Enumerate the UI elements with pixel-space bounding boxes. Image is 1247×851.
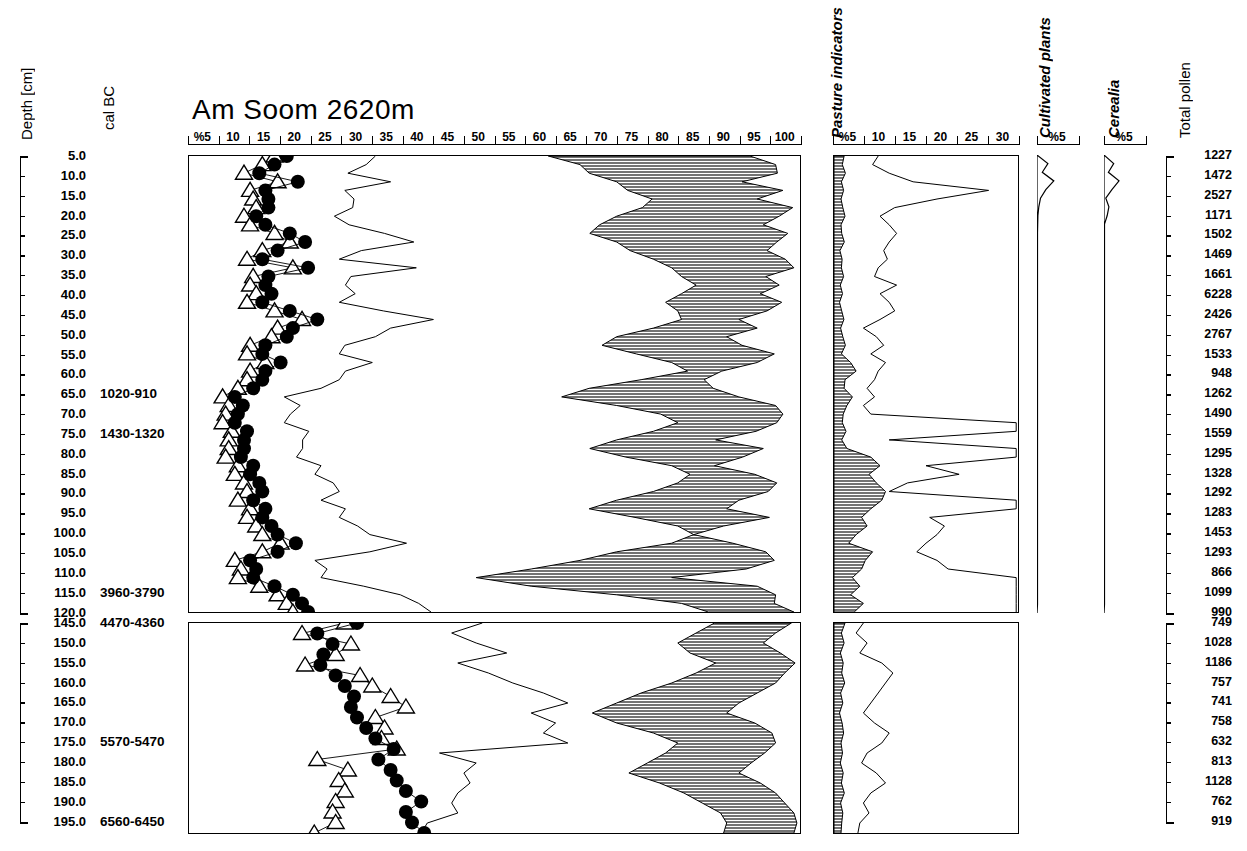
depth-label: 190.0 (26, 794, 86, 809)
depth-tick (20, 355, 25, 356)
total-pollen-value: 919 (1174, 814, 1232, 828)
axis-tick-label: 60 (527, 130, 552, 144)
depth-tick (20, 493, 25, 494)
total-pollen-tick (1166, 493, 1171, 494)
axis-tick (372, 136, 373, 145)
panel-pasture-top (833, 155, 1019, 613)
depth-tick (20, 315, 25, 316)
depth-label: 100.0 (26, 525, 86, 540)
depth-tick (20, 374, 25, 375)
depth-label: 110.0 (26, 565, 86, 580)
panel-main-bottom (188, 622, 801, 834)
depth-tick (20, 623, 25, 624)
total-pollen-value: 813 (1174, 754, 1232, 768)
total-pollen-tick (1166, 683, 1171, 684)
total-pollen-value: 6228 (1174, 287, 1232, 301)
axis-tick (586, 136, 587, 145)
total-pollen-tick (1166, 553, 1171, 554)
cal-bc-value: 6560-6450 (100, 814, 165, 829)
depth-tick (20, 663, 25, 664)
depth-tick (20, 822, 25, 823)
axis-tick-label: %5 (1039, 130, 1075, 144)
depth-tick (20, 613, 25, 614)
depth-tick (20, 216, 25, 217)
depth-label: 90.0 (26, 485, 86, 500)
axis-tick (833, 136, 834, 145)
total-pollen-value: 1533 (1174, 347, 1232, 361)
total-pollen-value: 1171 (1174, 208, 1232, 222)
axis-tick (770, 136, 771, 145)
total-pollen-tick (1166, 196, 1171, 197)
depth-label: 170.0 (26, 714, 86, 729)
axis-tick (280, 136, 281, 145)
axis-tick (926, 136, 927, 145)
axis-tick-label: 15 (251, 130, 276, 144)
total-pollen-value: 1028 (1174, 635, 1232, 649)
total-pollen-value: 1472 (1174, 168, 1232, 182)
depth-label: 75.0 (26, 426, 86, 441)
axis-tick-label: 75 (619, 130, 644, 144)
axis-tick-label: %5 (1106, 130, 1142, 144)
column-header-cerealia: Cerealia (1105, 60, 1122, 138)
panel-cerealia (1104, 155, 1146, 613)
total-pollen-value: 866 (1174, 565, 1232, 579)
depth-tick (20, 196, 25, 197)
depth-tick (20, 275, 25, 276)
depth-label: 95.0 (26, 505, 86, 520)
total-pollen-tick (1166, 394, 1171, 395)
total-pollen-value: 2767 (1174, 327, 1232, 341)
depth-label: 80.0 (26, 446, 86, 461)
total-pollen-tick (1166, 782, 1171, 783)
axis-tick (864, 136, 865, 145)
axis-tick (648, 136, 649, 145)
total-pollen-tick (1166, 275, 1171, 276)
total-pollen-value: 1128 (1174, 774, 1232, 788)
axis-label-depth: Depth [cm] (18, 30, 35, 140)
depth-tick (20, 802, 25, 803)
axis-tick (219, 136, 220, 145)
depth-label: 5.0 (26, 148, 86, 163)
axis-tick-label: 40 (405, 130, 430, 144)
axis-tick-label: 90 (711, 130, 736, 144)
depth-tick (20, 235, 25, 236)
total-pollen-tick (1166, 414, 1171, 415)
axis-tick-label: 20 (928, 130, 953, 144)
axis-tick-label: 30 (990, 130, 1015, 144)
column-header-total-pollen: Total pollen (1176, 40, 1193, 138)
total-pollen-tick (1166, 702, 1171, 703)
depth-label: 15.0 (26, 188, 86, 203)
total-pollen-value: 2527 (1174, 188, 1232, 202)
total-pollen-tick (1166, 663, 1171, 664)
depth-label: 10.0 (26, 168, 86, 183)
total-pollen-tick (1166, 802, 1171, 803)
axis-tick-label: 100 (772, 130, 797, 144)
axis-tick (433, 136, 434, 145)
axis-tick (188, 136, 189, 145)
series-circles-bottom (310, 623, 431, 833)
depth-label: 35.0 (26, 267, 86, 282)
depth-tick (20, 742, 25, 743)
cal-bc-value: 5570-5470 (100, 734, 165, 749)
axis-tick-label: 10 (866, 130, 891, 144)
total-pollen-value: 1262 (1174, 386, 1232, 400)
total-pollen-value: 749 (1174, 615, 1232, 629)
depth-label: 145.0 (26, 615, 86, 630)
total-pollen-value: 948 (1174, 366, 1232, 380)
axis-tick-label: 25 (959, 130, 984, 144)
depth-label: 85.0 (26, 466, 86, 481)
axis-tick (341, 136, 342, 145)
total-pollen-tick (1166, 156, 1171, 157)
axis-tick (801, 136, 802, 145)
depth-tick (20, 702, 25, 703)
depth-label: 60.0 (26, 366, 86, 381)
axis-tick (556, 136, 557, 145)
depth-tick (20, 573, 25, 574)
axis-tick-label: %5 (835, 130, 860, 144)
axis-tick (988, 136, 989, 145)
depth-tick (20, 156, 25, 157)
total-pollen-tick (1166, 295, 1171, 296)
axis-tick-label: 50 (466, 130, 491, 144)
depth-label: 105.0 (26, 545, 86, 560)
axis-label-cal-bc: cal BC (100, 70, 117, 130)
total-pollen-value: 632 (1174, 734, 1232, 748)
